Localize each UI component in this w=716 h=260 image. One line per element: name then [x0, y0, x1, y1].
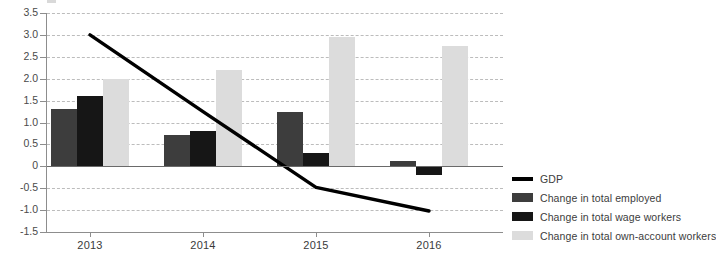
legend-item-label: Change in total employed — [540, 192, 661, 204]
bar — [329, 37, 355, 166]
bar — [103, 79, 129, 167]
bar — [164, 135, 190, 167]
bar — [190, 131, 216, 166]
y-axis-tick — [40, 232, 47, 233]
y-axis-tick-label: 0.5 — [0, 137, 38, 149]
y-axis-tick-label: 2.0 — [0, 72, 38, 84]
x-axis-tick — [203, 232, 204, 237]
x-axis-tick-label: 2014 — [163, 239, 243, 251]
zero-baseline — [47, 166, 503, 167]
legend-line-swatch — [512, 177, 533, 181]
y-axis-tick-label: -1.0 — [0, 203, 38, 215]
gridline — [47, 57, 503, 58]
legend-color-swatch — [512, 212, 533, 221]
x-axis-tick-label: 2013 — [50, 239, 130, 251]
bar — [442, 46, 468, 166]
x-axis-tick — [429, 232, 430, 237]
legend-item[interactable]: GDP — [512, 170, 716, 187]
y-axis-tick-label: 2.5 — [0, 50, 38, 62]
legend-item[interactable]: Change in total own-account workers — [512, 227, 716, 244]
bar — [77, 96, 103, 166]
y-axis-tick-label: 1.0 — [0, 116, 38, 128]
x-axis-tick-label: 2016 — [389, 239, 469, 251]
y-axis-tick-label: -0.5 — [0, 181, 38, 193]
chart-legend: GDPChange in total employedChange in tot… — [512, 170, 716, 246]
gridline — [47, 210, 503, 211]
y-axis-tick-label: 3.5 — [0, 6, 38, 18]
legend-item-label: GDP — [540, 173, 563, 185]
plot-area — [47, 13, 503, 232]
x-axis-tick — [90, 232, 91, 237]
bar — [277, 112, 303, 167]
bar — [416, 166, 442, 175]
top-edge-artifact — [47, 0, 56, 3]
bar — [303, 153, 329, 166]
legend-item[interactable]: Change in total wage workers — [512, 208, 716, 225]
gridline — [47, 188, 503, 189]
x-axis-tick-label: 2015 — [276, 239, 356, 251]
y-axis-tick-label: 3.0 — [0, 28, 38, 40]
legend-item-label: Change in total own-account workers — [540, 230, 716, 242]
y-axis-tick-label: 1.5 — [0, 94, 38, 106]
legend-item-label: Change in total wage workers — [540, 211, 681, 223]
bar — [216, 70, 242, 166]
legend-color-swatch — [512, 231, 533, 240]
x-axis-line — [47, 232, 503, 233]
y-axis-tick-label: -1.5 — [0, 225, 38, 237]
bar — [51, 109, 77, 166]
gridline — [47, 13, 503, 14]
x-axis-tick — [316, 232, 317, 237]
gridline — [47, 35, 503, 36]
y-axis-tick-label: 0 — [0, 159, 38, 171]
legend-item[interactable]: Change in total employed — [512, 189, 716, 206]
legend-color-swatch — [512, 193, 533, 202]
